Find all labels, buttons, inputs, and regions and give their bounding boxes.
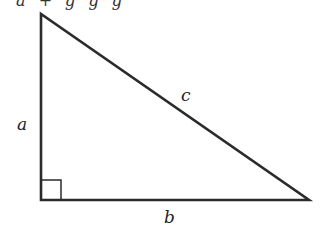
- right-angle-marker: [41, 180, 61, 200]
- label-c: c: [181, 85, 191, 105]
- label-a: a: [17, 114, 27, 134]
- triangle: [41, 14, 309, 200]
- right-triangle-diagram: a b c: [0, 0, 323, 229]
- label-b: b: [164, 207, 175, 227]
